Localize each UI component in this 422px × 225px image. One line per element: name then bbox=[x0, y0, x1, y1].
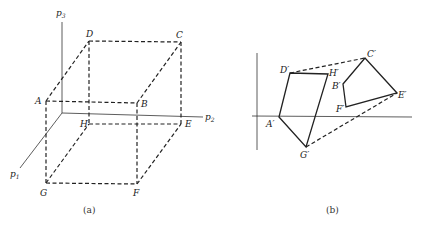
vertex-label-c: C bbox=[176, 30, 183, 40]
vertex-label-a-prime: A′ bbox=[265, 119, 275, 129]
p3-axis-label: p3 bbox=[56, 8, 66, 19]
vertex-label-b: B bbox=[140, 99, 148, 109]
vertex-label-c-prime: C′ bbox=[367, 49, 376, 59]
vertex-label-f: F bbox=[132, 188, 140, 198]
vertex-label-b-prime: B′ bbox=[331, 81, 341, 91]
horizontal-axis bbox=[252, 116, 412, 117]
vertex-label-f-prime: F′ bbox=[335, 104, 344, 114]
vertex-label-h: H bbox=[79, 119, 88, 129]
vertex-label-d: D bbox=[85, 29, 93, 39]
vertex-label-d-prime: D′ bbox=[279, 65, 289, 75]
p2-axis-label: p2 bbox=[205, 112, 215, 123]
p1-axis bbox=[20, 113, 62, 168]
vertex-label-e: E bbox=[184, 119, 192, 129]
vertex-label-h-prime: H′ bbox=[328, 68, 339, 78]
p2-axis bbox=[62, 113, 203, 117]
cube-edges bbox=[46, 41, 181, 184]
vertex-label-e-prime: E′ bbox=[397, 90, 407, 100]
projected-face-adhg bbox=[279, 73, 328, 147]
figure-a-caption: (a) bbox=[83, 205, 95, 215]
projected-face-bcef bbox=[343, 58, 397, 107]
figure-canvas: p3 p2 p1 A B C D E F G H (a) D′ H′ A′ G′… bbox=[0, 0, 422, 225]
vertex-label-g: G bbox=[40, 188, 47, 198]
vertex-label-g-prime: G′ bbox=[300, 150, 309, 160]
figure-a: p3 p2 p1 A B C D E F G H (a) bbox=[10, 8, 215, 215]
figure-b-caption: (b) bbox=[326, 205, 339, 215]
p1-axis-label: p1 bbox=[10, 169, 20, 180]
vertex-label-a: A bbox=[34, 96, 42, 106]
figure-b: D′ H′ A′ G′ C′ B′ F′ E′ (b) bbox=[252, 49, 412, 215]
